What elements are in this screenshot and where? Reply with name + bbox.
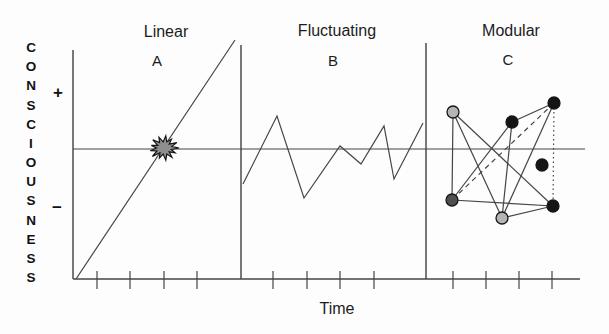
network-node [446, 194, 458, 206]
fluctuating-line [243, 116, 423, 198]
y-axis-letter: S [26, 98, 35, 113]
y-axis-letter: O [26, 155, 37, 170]
panel-a-title: Linear [144, 23, 189, 40]
y-axis-letter: C [26, 40, 36, 55]
y-axis-letter: S [26, 251, 35, 266]
y-axis-letter: S [26, 270, 35, 285]
network-edge-dotted [553, 103, 554, 206]
y-axis-letter: N [26, 78, 36, 93]
y-axis-letter: C [26, 117, 36, 132]
figure-canvas: CONSCIOUSNESS Linear A Fluctuating B Mod… [0, 0, 609, 334]
network-edge-solid [512, 103, 554, 122]
minus-sign: − [52, 198, 62, 217]
axes-layer [73, 43, 585, 289]
y-axis-letter: I [29, 136, 33, 151]
panel-c-title: Modular [482, 22, 540, 39]
y-axis-letter: E [26, 232, 35, 247]
network-node [506, 116, 518, 128]
network-node [547, 200, 559, 212]
network-edge-solid [452, 200, 553, 206]
panel-b-title: Fluctuating [298, 22, 376, 39]
network-edge-dashed [452, 103, 554, 200]
panel-b-layer [243, 116, 423, 198]
y-axis-letter: O [26, 59, 37, 74]
y-axis-letter: S [26, 193, 35, 208]
network-node [496, 212, 508, 224]
panel-a-layer [76, 40, 235, 279]
y-axis-letter: U [26, 174, 36, 189]
network-node [536, 159, 548, 171]
network-edge-solid [452, 112, 453, 200]
linear-trajectory-line [76, 40, 235, 279]
consciousness-time-figure: CONSCIOUSNESS Linear A Fluctuating B Mod… [0, 0, 609, 334]
plus-sign: + [53, 83, 63, 102]
burst-icon [150, 136, 179, 160]
panel-b-letter: B [328, 52, 338, 69]
y-axis-letter: N [26, 213, 36, 228]
network-node [447, 106, 459, 118]
panel-a-letter: A [152, 52, 162, 69]
network-edge-solid [453, 112, 553, 206]
panel-c-letter: C [503, 51, 514, 68]
x-axis-label: Time [320, 300, 355, 317]
network-node [548, 97, 560, 109]
network-edge-solid [452, 122, 512, 200]
y-axis-label: CONSCIOUSNESS [26, 40, 37, 285]
panel-c-layer [446, 97, 560, 224]
network-edge-solid [502, 206, 553, 218]
